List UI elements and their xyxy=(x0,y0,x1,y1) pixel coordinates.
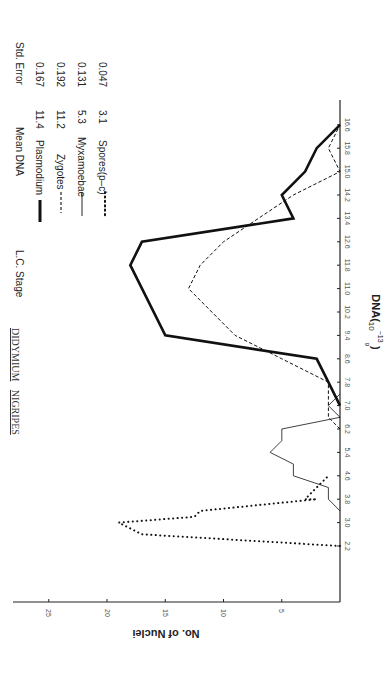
x-tick-label: 11.0 xyxy=(344,282,351,295)
legend-row-myxamoebae-label: Myxamoebae xyxy=(76,137,87,197)
legend-row-spores-mean: 3.1 xyxy=(97,110,108,124)
legend-row-zygotes-err: 0.192 xyxy=(55,62,66,87)
legend-row-plasmodium-label: Plasmodium xyxy=(34,140,45,195)
x-axis-label: DNA(10−13g) xyxy=(365,294,384,350)
x-tick-label: 3.0 xyxy=(344,518,351,528)
svg-text:DIDYMIUM NIGRIPES: DIDYMIUM NIGRIPES xyxy=(10,328,21,435)
svg-text:DNA(10−13g): DNA(10−13g) xyxy=(365,294,384,350)
series-myxamoebae xyxy=(270,394,340,511)
legend-row-spores-err: 0.047 xyxy=(97,62,108,87)
legend: L.C. Stage Mean DNA Std. Error Plasmodiu… xyxy=(14,42,108,298)
y-tick-label: 25 xyxy=(45,609,52,617)
x-tick-label: 3.8 xyxy=(344,494,351,504)
x-tick-label: 6.2 xyxy=(344,424,351,434)
legend-header-mean: Mean DNA xyxy=(14,127,25,176)
x-label-base: 10 xyxy=(367,322,376,331)
x-tick-label: 15.0 xyxy=(344,165,351,179)
legend-row-plasmodium-err: 0.167 xyxy=(34,62,45,87)
chart-figure: 2.23.03.84.65.46.27.07.88.69.410.211.011… xyxy=(0,0,384,689)
legend-header-stage: L.C. Stage xyxy=(14,250,25,298)
legend-row-myxamoebae-mean: 5.3 xyxy=(76,110,87,124)
y-tick-label: 15 xyxy=(162,609,169,617)
x-tick-label: 7.0 xyxy=(344,401,351,411)
legend-header-err: Std. Error xyxy=(14,42,25,85)
x-tick-label: 16.6 xyxy=(344,118,351,132)
x-tick-label: 12.6 xyxy=(344,235,351,249)
x-tick-label: 15.8 xyxy=(344,141,351,155)
x-tick-label: 4.6 xyxy=(344,471,351,481)
x-tick-label: 2.2 xyxy=(344,541,351,551)
x-tick-label: 9.4 xyxy=(344,331,351,341)
y-tick-label: 5 xyxy=(278,609,285,613)
chart-title: DIDYMIUM NIGRIPES xyxy=(10,328,21,435)
x-label-exp: −13 xyxy=(377,331,384,343)
legend-row-zygotes-label: Zygotes xyxy=(55,154,66,190)
x-tick-label: 5.4 xyxy=(344,448,351,458)
y-tick-label: 10 xyxy=(220,609,227,617)
x-tick-label: 7.8 xyxy=(344,377,351,387)
series-zygotes xyxy=(189,125,341,429)
x-tick-label: 13.4 xyxy=(344,212,351,226)
x-label-close: ) xyxy=(370,346,382,350)
y-label-text: No. of Nuclei xyxy=(132,628,199,640)
x-tick-label: 14.2 xyxy=(344,188,351,202)
x-tick-label: 11.8 xyxy=(344,259,351,272)
x-axis-ticks: 2.23.03.84.65.46.27.07.88.69.410.211.011… xyxy=(337,118,351,551)
legend-row-plasmodium-mean: 11.4 xyxy=(34,110,45,129)
series-spores-p-c xyxy=(119,476,340,546)
title-genus: DIDYMIUM xyxy=(10,328,21,381)
x-tick-label: 10.2 xyxy=(344,305,351,319)
series-layer xyxy=(119,125,340,546)
legend-row-spores-label: Spores(p–c) xyxy=(97,140,108,194)
x-tick-label: 8.6 xyxy=(344,354,351,364)
y-tick-label: 20 xyxy=(104,609,111,617)
title-species: NIGRIPES xyxy=(10,390,21,435)
y-axis-label: No. of Nuclei xyxy=(132,628,199,640)
series-plasmodium xyxy=(130,125,340,406)
legend-row-zygotes-mean: 11.2 xyxy=(55,110,66,129)
x-label-main: DNA( xyxy=(370,294,382,322)
legend-row-myxamoebae-err: 0.131 xyxy=(76,62,87,87)
